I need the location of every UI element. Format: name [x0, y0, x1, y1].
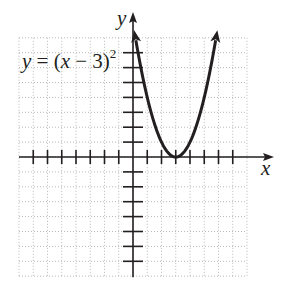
x-axis-label: x	[261, 156, 270, 181]
parabola-curve	[131, 30, 220, 157]
y-axis-label: y	[117, 6, 126, 31]
equation-label: y = (x − 3)2	[22, 48, 116, 74]
graph	[0, 0, 283, 289]
